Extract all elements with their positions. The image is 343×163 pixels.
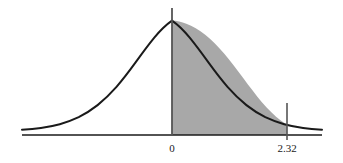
normal-distribution-figure: 0 2.32	[0, 0, 343, 163]
distribution-plot: 0 2.32	[0, 0, 343, 163]
axis-label-mean: 0	[169, 142, 175, 154]
axis-label-z-value: 2.32	[277, 142, 296, 154]
